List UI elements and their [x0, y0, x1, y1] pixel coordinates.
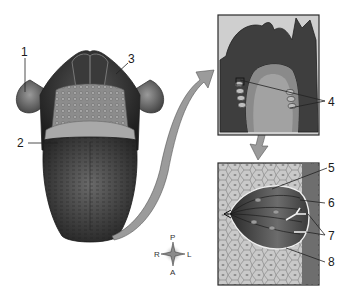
label-4: 4 [328, 95, 335, 109]
label-6: 6 [328, 196, 335, 210]
compass-posterior: P [170, 233, 175, 242]
label-8: 8 [328, 255, 335, 269]
compass-left: L [187, 250, 192, 259]
label-7: 7 [328, 229, 335, 243]
compass-star-icon [161, 242, 185, 266]
tongue-anatomy-diagram: 1 2 3 4 5 6 7 8 P A R L [0, 0, 349, 293]
label-2: 2 [17, 136, 24, 150]
papilla-inset [218, 15, 319, 135]
taste-bud-inset [218, 163, 319, 285]
compass-anterior: A [170, 268, 176, 277]
label-5: 5 [328, 161, 335, 175]
orientation-compass: P A R L [154, 233, 192, 277]
label-1: 1 [21, 45, 28, 59]
label-3: 3 [128, 52, 135, 66]
compass-right: R [154, 250, 160, 259]
